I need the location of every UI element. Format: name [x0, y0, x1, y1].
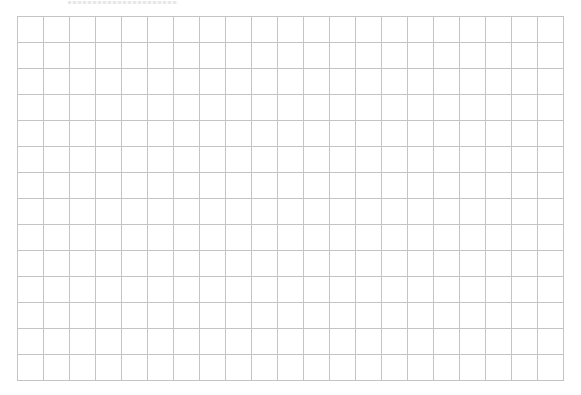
page [0, 0, 581, 395]
caption-ghost-text [68, 1, 178, 4]
clipped-caption [68, 0, 178, 5]
grid-paper [17, 16, 564, 381]
